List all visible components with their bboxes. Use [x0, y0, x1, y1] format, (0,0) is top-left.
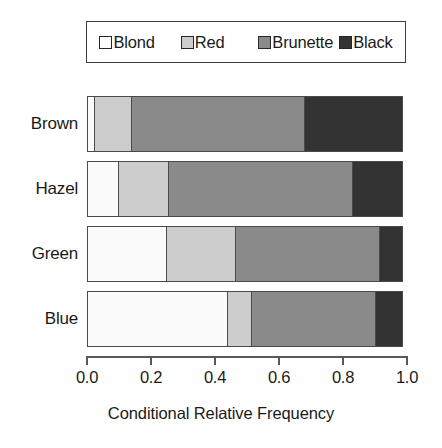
x-tick-label-0: 0.0	[64, 368, 110, 387]
x-tick-1	[150, 356, 152, 365]
x-tick-3	[278, 356, 280, 365]
stacked-bar-blue	[87, 291, 407, 347]
bar-segment-red	[118, 161, 169, 217]
bar-segment-brunette	[235, 226, 381, 282]
bar-segment-black	[375, 291, 404, 347]
stacked-bar-brown	[87, 96, 407, 152]
x-tick-label-1: 0.2	[128, 368, 174, 387]
category-label-green: Green	[0, 226, 78, 282]
bar-segment-red	[227, 291, 253, 347]
bar-group-hazel: Hazel	[0, 161, 442, 217]
bar-segment-red	[94, 96, 132, 152]
bar-group-blue: Blue	[0, 291, 442, 347]
bar-segment-brunette	[251, 291, 376, 347]
bar-segment-blond	[87, 226, 167, 282]
category-label-hazel: Hazel	[0, 161, 78, 217]
x-tick-0	[86, 356, 88, 365]
bar-segment-brunette	[131, 96, 305, 152]
bar-segment-red	[166, 226, 236, 282]
x-tick-label-2: 0.4	[192, 368, 238, 387]
category-label-blue: Blue	[0, 291, 78, 347]
x-tick-label-4: 0.8	[320, 368, 366, 387]
x-tick-label-5: 1.0	[384, 368, 430, 387]
x-tick-5	[406, 356, 408, 365]
x-axis-title: Conditional Relative Frequency	[0, 404, 442, 423]
x-axis: 0.00.20.40.60.81.0	[87, 356, 407, 357]
stacked-bar-green	[87, 226, 407, 282]
bar-group-green: Green	[0, 226, 442, 282]
category-label-brown: Brown	[0, 96, 78, 152]
bar-segment-black	[379, 226, 403, 282]
bar-segment-blond	[87, 161, 119, 217]
bar-segment-black	[304, 96, 403, 152]
bar-group-brown: Brown	[0, 96, 442, 152]
stacked-bar-chart: Blond Red Brunette Black Brown	[0, 0, 442, 448]
stacked-bar-hazel	[87, 161, 407, 217]
bar-segment-blond	[87, 291, 228, 347]
bar-segment-black	[352, 161, 403, 217]
x-axis-line	[87, 356, 407, 358]
x-tick-2	[214, 356, 216, 365]
x-tick-label-3: 0.6	[256, 368, 302, 387]
bar-segment-brunette	[168, 161, 354, 217]
x-tick-4	[342, 356, 344, 365]
